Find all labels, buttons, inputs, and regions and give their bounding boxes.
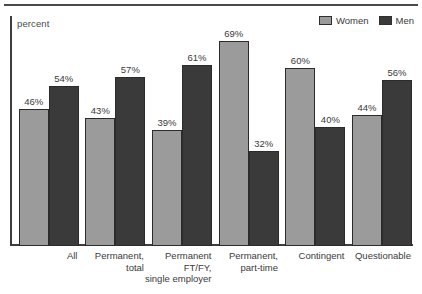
x-axis-label-line: Permanent,: [213, 250, 278, 262]
bar-men[interactable]: [249, 151, 279, 246]
x-axis-label-line: Permanent: [145, 250, 212, 262]
bar-chart-figure: percent Women Men 46%54%43%57%39%61%69%3…: [0, 0, 422, 294]
x-axis-label-line: Contingent: [279, 250, 344, 262]
x-axis-label-line: FT/FY,: [145, 262, 212, 274]
x-axis-label: Permanent,part-time: [213, 250, 279, 285]
bar-group: 43%57%: [79, 32, 146, 246]
x-axis-label: All: [12, 250, 78, 285]
bar-value-label: 54%: [54, 73, 73, 84]
header-rule: [4, 4, 418, 6]
bar-slot: 39%: [152, 32, 182, 246]
bar-women[interactable]: [85, 118, 115, 246]
bar-value-label: 60%: [291, 55, 310, 66]
bar-men[interactable]: [49, 86, 79, 247]
bar-women[interactable]: [285, 68, 315, 246]
bar-men[interactable]: [315, 127, 345, 246]
legend-swatch-women: [319, 16, 332, 25]
x-axis-label-line: single employer: [145, 273, 212, 285]
bar-women[interactable]: [219, 41, 249, 246]
y-axis-caption: percent: [17, 18, 49, 29]
bar-value-label: 43%: [91, 105, 110, 116]
bar-slot: 56%: [382, 32, 412, 246]
bar-men[interactable]: [115, 77, 145, 246]
bar-slot: 69%: [219, 32, 249, 246]
x-axis-label-line: Questionable: [345, 250, 410, 262]
legend-swatch-men: [379, 16, 392, 25]
bar-value-label: 39%: [158, 117, 177, 128]
x-axis-label: PermanentFT/FY,single employer: [145, 250, 213, 285]
x-axis-label: Permanent,total: [78, 250, 144, 285]
bar-slot: 44%: [352, 32, 382, 246]
legend-label-men: Men: [396, 15, 414, 26]
x-axis-label-line: Permanent,: [78, 250, 143, 262]
bar-men[interactable]: [382, 80, 412, 246]
bar-value-label: 44%: [358, 102, 377, 113]
bar-women[interactable]: [352, 115, 382, 246]
x-axis-labels: AllPermanent,totalPermanentFT/FY,single …: [12, 250, 412, 285]
bar-slot: 40%: [315, 32, 345, 246]
bar-slot: 43%: [85, 32, 115, 246]
legend-entry-women: Women: [319, 15, 369, 26]
bar-slot: 32%: [249, 32, 279, 246]
bar-group: 39%61%: [145, 32, 212, 246]
x-axis-label: Contingent: [279, 250, 345, 285]
bar-men[interactable]: [182, 65, 212, 246]
bar-group: 44%56%: [345, 32, 412, 246]
legend-label-women: Women: [336, 15, 369, 26]
bar-value-label: 40%: [321, 114, 340, 125]
chart-legend: Women Men: [319, 15, 414, 26]
x-axis-label-line: total: [78, 262, 143, 274]
bar-value-label: 69%: [224, 28, 243, 39]
bar-value-label: 57%: [121, 64, 140, 75]
bar-slot: 60%: [285, 32, 315, 246]
bars-area: 46%54%43%57%39%61%69%32%60%40%44%56%: [12, 32, 412, 246]
bar-slot: 46%: [19, 32, 49, 246]
x-axis-label: Questionable: [345, 250, 411, 285]
bar-slot: 54%: [49, 32, 79, 246]
bar-women[interactable]: [152, 130, 182, 246]
legend-entry-men: Men: [379, 15, 414, 26]
x-axis-label-line: part-time: [213, 262, 278, 274]
bar-slot: 61%: [182, 32, 212, 246]
bar-value-label: 32%: [254, 138, 273, 149]
bar-value-label: 56%: [388, 67, 407, 78]
bar-slot: 57%: [115, 32, 145, 246]
bar-women[interactable]: [19, 109, 49, 246]
x-axis-label-line: All: [12, 250, 77, 262]
bar-group: 60%40%: [279, 32, 346, 246]
bar-group: 46%54%: [12, 32, 79, 246]
bar-value-label: 61%: [188, 52, 207, 63]
bar-group: 69%32%: [212, 32, 279, 246]
bar-value-label: 46%: [24, 96, 43, 107]
